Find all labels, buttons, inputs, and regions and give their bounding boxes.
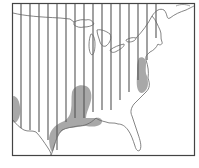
- range-map: [0, 0, 199, 168]
- map-frame: [13, 4, 195, 156]
